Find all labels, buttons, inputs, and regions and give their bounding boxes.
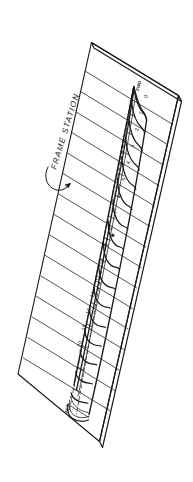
station-number: 16 bbox=[85, 307, 92, 314]
transom-stern bbox=[68, 397, 89, 422]
transom-base-line bbox=[69, 405, 89, 418]
station-line bbox=[45, 256, 132, 309]
hull-lines-drawing: 0 1 2 3 4 5 6 7 8 9 10 12 14 16 18 20 ✱ … bbox=[0, 0, 193, 482]
midship-marker-icon: ✱ bbox=[109, 233, 116, 238]
frame-station-callout: FRAME STATION bbox=[46, 92, 81, 190]
bow-label: FWD bbox=[135, 80, 142, 91]
station-number: 7 bbox=[111, 210, 118, 214]
station-number: 6 bbox=[116, 193, 123, 197]
sheer-line-port bbox=[74, 87, 134, 386]
station-line bbox=[41, 276, 128, 329]
station-number-labels: 0 1 2 3 4 5 6 7 8 9 10 12 14 16 18 20 bbox=[76, 94, 149, 347]
station-number: 2 bbox=[133, 127, 140, 131]
stern-label: AFT bbox=[64, 404, 71, 414]
frame-section-curves bbox=[71, 89, 146, 403]
station-number: 9 bbox=[103, 243, 110, 247]
station-line bbox=[67, 153, 154, 206]
figure-canvas: 0 1 2 3 4 5 6 7 8 9 10 12 14 16 18 20 ✱ … bbox=[0, 0, 193, 482]
station-number: 0 bbox=[142, 94, 149, 98]
base-plane-top-edge bbox=[92, 43, 182, 102]
station-number: 10 bbox=[98, 258, 105, 265]
transom-outline bbox=[68, 404, 89, 421]
callout-arrowhead-icon bbox=[65, 183, 70, 188]
station-line bbox=[28, 338, 115, 391]
station-line bbox=[23, 358, 110, 411]
base-plane-right-edge bbox=[100, 96, 182, 448]
station-number: 3 bbox=[129, 144, 136, 148]
station-number: 4 bbox=[125, 160, 132, 164]
